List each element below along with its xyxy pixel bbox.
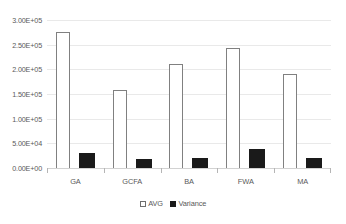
bar-chart: 0.00E+005.00E+041.00E+051.50E+052.00E+05… [0, 0, 346, 224]
bar-avg-gcfa [113, 90, 127, 168]
category-group [47, 20, 104, 168]
category-group [217, 20, 274, 168]
bar-variance-ga [79, 153, 95, 168]
x-axis: GAGCFABAFWAMA [47, 168, 331, 196]
legend-entry-variance[interactable]: Variance [170, 199, 206, 208]
legend-entry-avg[interactable]: AVG [140, 199, 163, 208]
y-axis-tick-label: 1.50E+05 [12, 90, 42, 99]
category-group [274, 20, 331, 168]
bars-layer [47, 20, 331, 168]
x-axis-tick [161, 168, 162, 173]
bar-avg-fwa [226, 48, 240, 168]
bar-avg-ba [169, 64, 183, 168]
x-axis-label-gcfa: GCFA [122, 177, 142, 186]
y-axis-tick-label: 2.50E+05 [12, 40, 42, 49]
legend-swatch-avg-icon [140, 201, 146, 207]
bar-avg-ma [283, 74, 297, 168]
y-axis-tick-label: 5.00E+04 [12, 139, 42, 148]
x-axis-label-ga: GA [70, 177, 80, 186]
bar-avg-ga [56, 32, 70, 168]
legend-swatch-variance-icon [170, 201, 176, 207]
chart-legend: AVGVariance [0, 199, 346, 208]
x-axis-tick [104, 168, 105, 173]
bar-variance-ma [306, 158, 322, 168]
y-axis-tick-label: 1.00E+05 [12, 114, 42, 123]
x-axis-label-ba: BA [184, 177, 194, 186]
bar-variance-ba [192, 158, 208, 168]
y-axis: 0.00E+005.00E+041.00E+051.50E+052.00E+05… [0, 0, 46, 224]
category-group [104, 20, 161, 168]
category-group [161, 20, 218, 168]
legend-label: Variance [178, 199, 206, 208]
legend-label: AVG [148, 199, 163, 208]
bar-variance-fwa [249, 149, 265, 168]
y-axis-tick-label: 3.00E+05 [12, 16, 42, 25]
y-axis-tick-label: 0.00E+00 [12, 164, 42, 173]
plot-area [47, 20, 331, 168]
x-axis-tick [217, 168, 218, 173]
x-axis-label-fwa: FWA [238, 177, 254, 186]
y-axis-tick-label: 2.00E+05 [12, 65, 42, 74]
bar-variance-gcfa [136, 159, 152, 168]
x-axis-tick [47, 168, 48, 173]
x-axis-tick [274, 168, 275, 173]
x-axis-label-ma: MA [297, 177, 308, 186]
x-axis-tick [330, 168, 331, 173]
